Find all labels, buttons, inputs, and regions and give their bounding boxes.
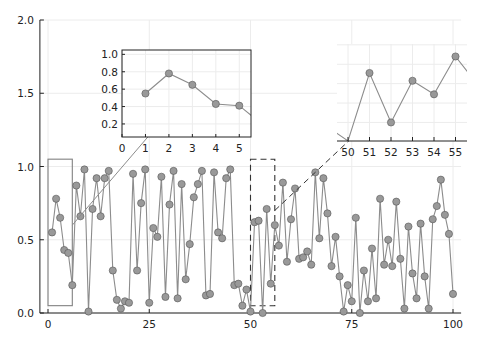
inset-data-point xyxy=(165,70,172,77)
data-point xyxy=(109,267,116,274)
data-point xyxy=(437,176,444,183)
inset-data-point xyxy=(452,53,459,60)
data-point xyxy=(113,296,120,303)
data-point xyxy=(283,258,290,265)
inset-data-point xyxy=(236,102,243,109)
inset-data-point xyxy=(189,81,196,88)
data-point xyxy=(89,205,96,212)
inset-x-tick-label: 54 xyxy=(427,146,441,158)
data-point xyxy=(101,175,108,182)
x-tick-label: 50 xyxy=(244,318,257,330)
data-point xyxy=(186,241,193,248)
data-point xyxy=(405,223,412,230)
data-point xyxy=(105,167,112,174)
data-point xyxy=(138,200,145,207)
y-tick-label: 1.0 xyxy=(17,161,34,173)
data-point xyxy=(356,309,363,316)
data-point xyxy=(425,305,432,312)
data-point xyxy=(81,166,88,173)
data-point xyxy=(247,308,254,315)
series-line xyxy=(52,169,453,313)
data-point xyxy=(239,302,246,309)
data-point xyxy=(219,235,226,242)
data-point xyxy=(190,194,197,201)
inset-x-tick-label: 1 xyxy=(142,142,149,154)
data-point xyxy=(421,273,428,280)
x-tick-label: 0 xyxy=(45,318,52,330)
inset-data-point xyxy=(430,91,437,98)
data-point xyxy=(344,282,351,289)
data-point xyxy=(441,211,448,218)
data-point xyxy=(287,216,294,223)
y-tick-label: 0.0 xyxy=(17,307,34,319)
data-point xyxy=(65,249,72,256)
data-point xyxy=(146,299,153,306)
data-point xyxy=(117,305,124,312)
data-point xyxy=(413,295,420,302)
data-point xyxy=(389,263,396,270)
inset-data-point xyxy=(409,77,416,84)
x-tick-label: 25 xyxy=(143,318,156,330)
inset-x-tick-label: 4 xyxy=(212,142,219,154)
data-point xyxy=(53,195,60,202)
data-point xyxy=(182,276,189,283)
inset-x-tick-label: 52 xyxy=(384,146,397,158)
data-point xyxy=(134,267,141,274)
data-point xyxy=(368,245,375,252)
data-point xyxy=(154,233,161,240)
data-point xyxy=(125,299,132,306)
x-tick-label: 100 xyxy=(443,318,463,330)
inset-y-tick-label: 0.2 xyxy=(101,118,118,130)
data-point xyxy=(97,213,104,220)
data-point xyxy=(449,290,456,297)
data-point xyxy=(336,273,343,280)
data-point xyxy=(397,255,404,262)
data-point xyxy=(401,305,408,312)
inset-x-tick-label: 51 xyxy=(363,146,376,158)
inset-y-tick-label: 0.6 xyxy=(101,83,118,95)
inset-data-point xyxy=(387,119,394,126)
inset-x-tick-label: 3 xyxy=(189,142,196,154)
data-point xyxy=(393,198,400,205)
x-tick-label: 75 xyxy=(345,318,358,330)
inset-data-point xyxy=(212,100,219,107)
inset-x-tick-label: 0 xyxy=(119,142,126,154)
y-tick-label: 0.5 xyxy=(17,234,34,246)
data-point xyxy=(340,308,347,315)
inset-data-point xyxy=(366,69,373,76)
data-point xyxy=(57,214,64,221)
data-point xyxy=(332,233,339,240)
inset-plot-1: 0.20.40.60.81.0012345 xyxy=(101,48,262,154)
data-point xyxy=(162,293,169,300)
data-point xyxy=(142,166,149,173)
data-point xyxy=(445,230,452,237)
data-point xyxy=(267,280,274,287)
inset-x-tick-label: 5 xyxy=(236,142,243,154)
data-point xyxy=(259,309,266,316)
data-point xyxy=(223,175,230,182)
data-point xyxy=(308,261,315,268)
data-point xyxy=(433,202,440,209)
data-point xyxy=(85,308,92,315)
data-point xyxy=(263,205,270,212)
data-point xyxy=(129,170,136,177)
data-point xyxy=(372,295,379,302)
inset-x-tick-label: 53 xyxy=(406,146,419,158)
data-point xyxy=(352,214,359,221)
data-point xyxy=(255,217,262,224)
data-point xyxy=(429,216,436,223)
inset-x-tick-label: 2 xyxy=(166,142,173,154)
data-point xyxy=(166,201,173,208)
data-point xyxy=(198,167,205,174)
data-point xyxy=(275,242,282,249)
data-point xyxy=(417,220,424,227)
data-point xyxy=(178,180,185,187)
chart-canvas: 0.00.51.01.52.00255075100 0.20.40.60.81.… xyxy=(0,0,479,341)
data-point xyxy=(279,179,286,186)
data-point xyxy=(227,166,234,173)
inset-background xyxy=(337,44,467,141)
inset-plot-2: 505152535455 xyxy=(327,44,478,158)
data-point xyxy=(348,298,355,305)
data-point xyxy=(194,180,201,187)
data-point xyxy=(150,224,157,231)
